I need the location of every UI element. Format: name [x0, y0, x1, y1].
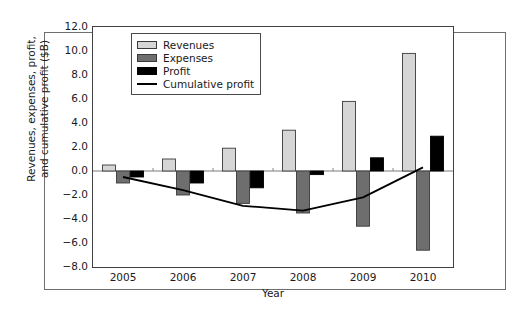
bar-profit-2005	[131, 171, 144, 177]
legend-label: Revenues	[163, 39, 214, 51]
x-axis-tick-label: 2009	[333, 271, 393, 283]
legend-item-revenues: Revenues	[137, 38, 254, 51]
x-axis-tick-label: 2006	[153, 271, 213, 283]
x-axis-title: Year	[92, 287, 454, 299]
bar-revenues-2010	[403, 53, 416, 171]
bar-revenues-2005	[103, 165, 116, 171]
legend-swatch-dark-gray-box	[137, 54, 157, 62]
bar-profit-2009	[371, 158, 384, 171]
legend-item-cumulative-profit: Cumulative profit	[137, 77, 254, 90]
x-axis-tick-label: 2005	[93, 271, 153, 283]
bar-profit-2008	[311, 171, 324, 175]
bar-revenues-2009	[343, 101, 356, 171]
x-axis-tick-label: 2007	[213, 271, 273, 283]
x-axis-tick-label: 2008	[273, 271, 333, 283]
bar-revenues-2007	[223, 148, 236, 171]
plot-area: RevenuesExpensesProfitCumulative profit	[92, 26, 454, 268]
legend-swatch-black-box	[137, 67, 157, 75]
x-axis-tick-labels: 200520062007200820092010	[92, 271, 454, 285]
y-axis-tick-label: −6.0	[44, 237, 88, 247]
legend-item-expenses: Expenses	[137, 51, 254, 64]
y-axis-title: Revenues, expenses, profit, and cumulati…	[25, 0, 51, 224]
bar-expenses-2008	[297, 171, 310, 213]
bar-profit-2007	[251, 171, 264, 188]
legend-label: Cumulative profit	[163, 78, 254, 90]
y-axis-tick-label: −8.0	[44, 261, 88, 271]
legend-swatch-black-line	[137, 83, 157, 85]
bar-expenses-2010	[417, 171, 430, 250]
bar-revenues-2008	[283, 130, 296, 171]
cumulative-profit-line	[123, 167, 423, 210]
legend-label: Expenses	[163, 52, 213, 64]
legend-swatch-light-gray-box	[137, 41, 157, 49]
bar-profit-2006	[191, 171, 204, 183]
legend-item-profit: Profit	[137, 64, 254, 77]
chart-figure: 12.010.08.06.04.02.00.0−2.0−4.0−6.0−8.0 …	[0, 0, 520, 316]
y-axis-title-line-1: Revenues, expenses, profit,	[25, 0, 38, 224]
y-axis-title-line-2: and cumulative profit ($B)	[38, 0, 51, 224]
bar-profit-2010	[431, 136, 444, 171]
bar-revenues-2006	[163, 159, 176, 171]
x-axis-tick-label: 2010	[393, 271, 453, 283]
chart-legend: RevenuesExpensesProfitCumulative profit	[131, 33, 261, 95]
legend-label: Profit	[163, 65, 190, 77]
bar-expenses-2007	[237, 171, 250, 203]
